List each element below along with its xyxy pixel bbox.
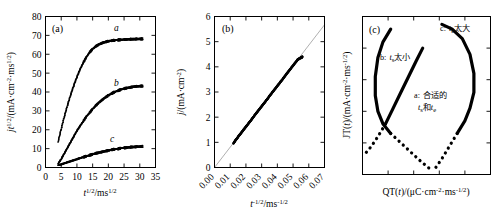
panel-a-xtick: 20 xyxy=(104,172,114,182)
panel-a-ytick: 10 xyxy=(32,144,42,154)
data-point xyxy=(61,125,63,127)
data-point xyxy=(61,127,63,129)
curve-solid xyxy=(442,24,474,133)
panel-b-ylabel: j/(mA·cm-2) xyxy=(175,69,188,117)
annotation-c: c:te太大 xyxy=(440,23,470,34)
data-point xyxy=(142,86,144,88)
curve-label-c: c xyxy=(110,134,115,144)
panel-a-ytick: 70 xyxy=(32,31,42,41)
panel-b-ytick: 0 xyxy=(206,163,211,173)
panel-a-ylabel: jt1/2/(mA·cm-2·ms1/2) xyxy=(5,52,18,134)
panel-a-ytick: 40 xyxy=(32,87,42,97)
panel-a-xtick: 30 xyxy=(135,172,145,182)
data-point xyxy=(142,146,144,148)
panel-a-xtick: 0 xyxy=(43,172,48,182)
data-point xyxy=(62,121,64,123)
panel-a-ytick: 20 xyxy=(32,125,42,135)
panel-a-tag: (a) xyxy=(52,23,63,35)
data-point xyxy=(62,123,64,125)
panel-b-xtick: 0.04 xyxy=(260,172,279,191)
curve-dotted xyxy=(391,133,433,171)
panel-b-svg: 0.000.010.020.030.040.050.060.070123456 … xyxy=(168,0,336,223)
panel-a-ytick: 80 xyxy=(32,12,42,22)
data-point xyxy=(62,119,64,121)
annotation-b: b:ts太小 xyxy=(380,52,410,63)
panel-b: 0.000.010.020.030.040.050.060.070123456 … xyxy=(168,0,336,223)
panel-a-ytick: 50 xyxy=(32,69,42,79)
panel-a-xtick: 35 xyxy=(151,172,161,182)
curve-label-b: b xyxy=(114,78,119,88)
panel-c-svg: (c) b:ts太小 c:te太大 a:合适的 ts和te QT(t)/(μC·… xyxy=(336,0,504,223)
panel-a-xtick: 15 xyxy=(88,172,98,182)
data-point xyxy=(142,39,144,41)
data-point xyxy=(142,84,144,86)
panel-b-ytick: 6 xyxy=(206,12,211,22)
data-point xyxy=(60,128,62,130)
data-point xyxy=(301,56,303,58)
panel-a-xtick: 25 xyxy=(119,172,129,182)
panel-a: 0510152025303501020304050607080 (a) a b … xyxy=(0,0,168,223)
panel-a-ytick: 60 xyxy=(32,50,42,60)
panel-c-ylabel: JT(t)/(mA·cm-2·ms-1/2) xyxy=(341,52,354,139)
panel-a-svg: 0510152025303501020304050607080 (a) a b … xyxy=(0,0,168,223)
data-point xyxy=(63,118,65,120)
panel-b-xtick: 0.01 xyxy=(213,172,232,191)
panel-b-ytick: 4 xyxy=(206,62,211,72)
panel-c: (c) b:ts太小 c:te太大 a:合适的 ts和te QT(t)/(μC·… xyxy=(336,0,504,223)
data-point xyxy=(142,37,144,39)
curve-label-a: a xyxy=(114,23,119,33)
panel-b-ytick: 2 xyxy=(206,113,211,123)
data-point xyxy=(142,145,144,147)
panel-b-xtick: 0.06 xyxy=(291,172,310,191)
figure-container: 0510152025303501020304050607080 (a) a b … xyxy=(0,0,504,223)
panel-a-xtick: 5 xyxy=(59,172,64,182)
panel-a-xlabel: t1/2/ms1/2 xyxy=(83,187,116,199)
panel-b-ytick: 1 xyxy=(206,138,211,148)
panel-a-ytick: 30 xyxy=(32,106,42,116)
panel-b-frame xyxy=(215,17,325,168)
panel-c-tag: (c) xyxy=(369,24,380,36)
annotation-a-line1: a:合适的 xyxy=(414,90,447,100)
panel-b-xtick: 0.05 xyxy=(276,172,295,191)
panel-b-xtick: 0.02 xyxy=(229,172,248,191)
panel-b-xtick: 0.03 xyxy=(244,172,263,191)
panel-b-tag: (b) xyxy=(222,23,234,35)
curve-dotted xyxy=(434,133,457,169)
panel-b-xlabel: t-1/2/ms-1/2 xyxy=(250,198,288,210)
panel-a-xtick: 10 xyxy=(72,172,82,182)
panel-b-xtick: 0.07 xyxy=(307,172,326,191)
annotation-a-line2: ts和te xyxy=(418,103,436,113)
panel-a-ytick: 0 xyxy=(37,163,42,173)
panel-b-ticks xyxy=(215,17,325,168)
panel-b-ytick: 3 xyxy=(206,87,211,97)
panel-b-xtick: 0.00 xyxy=(197,172,216,191)
curve-dotted xyxy=(366,124,385,152)
panel-c-xlabel: QT(t)/(μC·cm-2·ms-1/2) xyxy=(382,186,469,199)
panel-b-ytick: 5 xyxy=(206,37,211,47)
